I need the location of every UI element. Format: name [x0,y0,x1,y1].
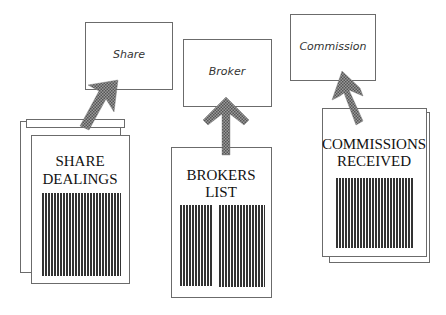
document-commissions-received: COMMISSIONS RECEIVED [322,109,430,263]
entity-box-broker: Broker [184,40,272,107]
barcode-content-right [218,205,265,287]
barcode-content-left [180,205,212,286]
diagram-canvas: Share Broker Commission SHARE DEALINGS B… [0,0,446,315]
barcode-content [41,193,121,276]
document-share-dealings: SHARE DEALINGS [21,120,130,284]
entity-label-broker: Broker [209,65,247,78]
document-title-line2: LIST [205,184,237,200]
entity-box-commission: Commission [291,15,376,81]
document-title-line2: RECEIVED [337,153,411,169]
entity-label-share: Share [113,48,145,61]
document-title-line1: SHARE [55,153,104,169]
document-title-line1: BROKERS [186,167,255,183]
barcode-content [336,178,414,248]
entity-box-share: Share [86,23,173,90]
document-brokers-list: BROKERS LIST [172,148,272,298]
document-title-line1: COMMISSIONS [322,136,426,152]
entity-label-commission: Commission [299,40,366,53]
document-title-line2: DEALINGS [43,171,118,187]
